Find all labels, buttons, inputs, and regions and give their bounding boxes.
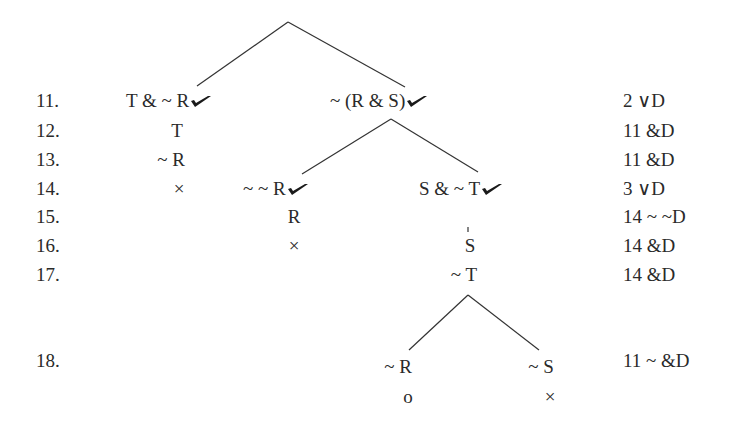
tree-node: T — [171, 120, 183, 142]
justification: 14 &D — [623, 264, 675, 286]
justification: 3 ∨D — [623, 178, 665, 200]
line-number: 12. — [36, 120, 60, 142]
justification: 14 &D — [623, 235, 675, 257]
line-number: 14. — [36, 178, 60, 200]
tree-node: ~ S — [528, 356, 554, 378]
open-branch-mark: o — [403, 386, 413, 408]
closed-branch-mark: × — [289, 235, 300, 257]
node-formula: ~ ~ R — [243, 178, 286, 199]
tree-node: ~ ~ R — [243, 178, 309, 200]
node-formula: S & ~ T — [419, 178, 480, 199]
tree-node: ~ T — [451, 264, 477, 286]
tree-node: R — [288, 206, 301, 228]
tree-node: T & ~ R — [126, 90, 212, 112]
justification: 11 &D — [623, 149, 675, 171]
justification: 11 ~ &D — [623, 350, 690, 372]
tree-node: S — [465, 235, 476, 257]
justification: 14 ~ ~D — [623, 206, 686, 228]
tree-node: ~ R — [384, 356, 412, 378]
checkmark-icon — [481, 182, 503, 196]
node-formula: ~ (R & S) — [330, 90, 405, 111]
tree-node: S & ~ T — [419, 178, 503, 200]
justification: 11 &D — [623, 120, 675, 142]
line-number: 13. — [36, 149, 60, 171]
line-number: 18. — [36, 350, 60, 372]
line-number: 16. — [36, 235, 60, 257]
checkmark-icon — [190, 94, 212, 108]
closed-branch-mark: × — [174, 178, 185, 200]
line-number: 17. — [36, 264, 60, 286]
line-number: 11. — [36, 90, 59, 112]
checkmark-icon — [287, 182, 309, 196]
node-formula: T & ~ R — [126, 90, 189, 111]
closed-branch-mark: × — [545, 386, 556, 408]
tree-node: ~ (R & S) — [330, 90, 428, 112]
checkmark-icon — [406, 94, 428, 108]
tree-node: ~ R — [157, 149, 185, 171]
line-number: 15. — [36, 206, 60, 228]
justification: 2 ∨D — [623, 90, 665, 112]
